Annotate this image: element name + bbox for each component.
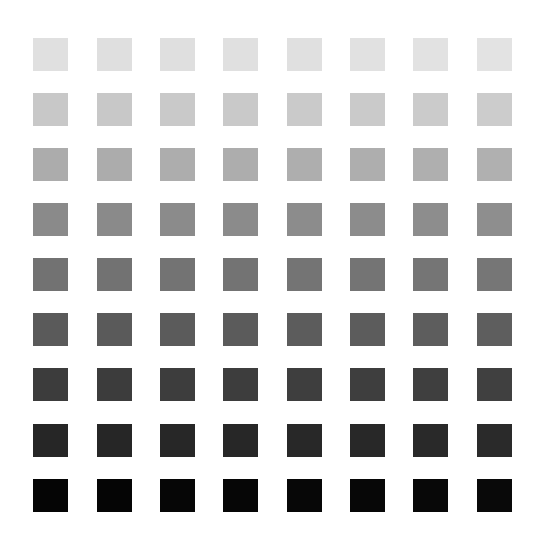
gray-swatch [287, 424, 322, 457]
gray-swatch [160, 148, 195, 181]
gray-swatch [287, 148, 322, 181]
gray-swatch [33, 148, 68, 181]
gray-swatch [350, 93, 385, 126]
gray-swatch [97, 479, 132, 512]
gray-swatch [477, 38, 512, 71]
gray-swatch [477, 148, 512, 181]
gray-swatch [223, 479, 258, 512]
gray-swatch [223, 313, 258, 346]
gray-swatch [350, 203, 385, 236]
gray-swatch [97, 38, 132, 71]
grayscale-swatch-grid [0, 0, 543, 551]
gray-swatch [477, 203, 512, 236]
gray-swatch [223, 148, 258, 181]
gray-swatch [413, 93, 448, 126]
gray-swatch [350, 368, 385, 401]
gray-swatch [413, 368, 448, 401]
gray-swatch [33, 479, 68, 512]
gray-swatch [97, 368, 132, 401]
gray-swatch [350, 148, 385, 181]
gray-swatch [33, 313, 68, 346]
gray-swatch [477, 424, 512, 457]
gray-swatch [97, 148, 132, 181]
gray-swatch [413, 424, 448, 457]
gray-swatch [160, 203, 195, 236]
gray-swatch [33, 368, 68, 401]
gray-swatch [33, 424, 68, 457]
gray-swatch [287, 313, 322, 346]
gray-swatch [33, 93, 68, 126]
gray-swatch [287, 93, 322, 126]
gray-swatch [477, 93, 512, 126]
gray-swatch [287, 258, 322, 291]
gray-swatch [287, 479, 322, 512]
gray-swatch [33, 38, 68, 71]
gray-swatch [223, 368, 258, 401]
gray-swatch [477, 479, 512, 512]
gray-swatch [350, 38, 385, 71]
gray-swatch [160, 479, 195, 512]
gray-swatch [160, 313, 195, 346]
gray-swatch [413, 479, 448, 512]
gray-swatch [477, 313, 512, 346]
gray-swatch [413, 148, 448, 181]
gray-swatch [223, 203, 258, 236]
gray-swatch [97, 313, 132, 346]
gray-swatch [160, 368, 195, 401]
gray-swatch [413, 203, 448, 236]
gray-swatch [350, 424, 385, 457]
gray-swatch [350, 313, 385, 346]
gray-swatch [223, 93, 258, 126]
gray-swatch [160, 38, 195, 71]
gray-swatch [413, 38, 448, 71]
gray-swatch [287, 368, 322, 401]
gray-swatch [413, 258, 448, 291]
gray-swatch [33, 203, 68, 236]
gray-swatch [97, 258, 132, 291]
gray-swatch [223, 424, 258, 457]
gray-swatch [477, 368, 512, 401]
gray-swatch [350, 479, 385, 512]
gray-swatch [223, 258, 258, 291]
gray-swatch [287, 203, 322, 236]
gray-swatch [223, 38, 258, 71]
gray-swatch [97, 93, 132, 126]
gray-swatch [160, 258, 195, 291]
gray-swatch [477, 258, 512, 291]
gray-swatch [160, 93, 195, 126]
gray-swatch [97, 203, 132, 236]
gray-swatch [287, 38, 322, 71]
gray-swatch [160, 424, 195, 457]
gray-swatch [33, 258, 68, 291]
gray-swatch [413, 313, 448, 346]
gray-swatch [350, 258, 385, 291]
gray-swatch [97, 424, 132, 457]
